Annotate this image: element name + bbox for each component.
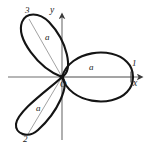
origin-label: O [60, 80, 67, 89]
tick-label-1: 1 [132, 59, 137, 68]
tip-label-3: 3 [25, 6, 30, 15]
radius-label-upper-left: a [45, 33, 50, 42]
radius-label-lower-left: a [36, 104, 41, 113]
y-axis-label: y [50, 6, 54, 16]
tip-label-2: 2 [23, 135, 28, 144]
rose-curve-plot [0, 0, 147, 153]
polar-rose-figure: 3 2 1 a a a O x y [0, 0, 147, 153]
x-axis-label: x [133, 79, 137, 89]
radius-label-right: a [89, 63, 94, 72]
